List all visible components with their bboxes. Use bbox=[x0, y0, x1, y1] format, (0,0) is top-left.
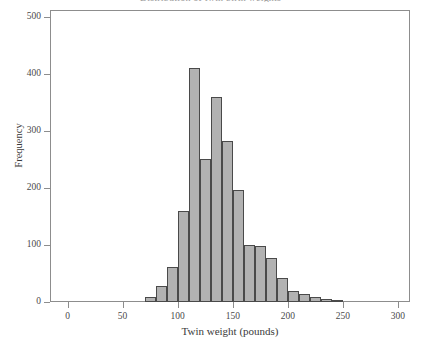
x-axis-tick-label: 100 bbox=[158, 311, 198, 321]
y-axis-tick-label: 300 bbox=[0, 125, 41, 135]
x-axis-tick-label: 50 bbox=[103, 311, 143, 321]
histogram-figure: Distribution of twin birth weights Frequ… bbox=[0, 0, 421, 347]
y-axis-tick bbox=[44, 188, 50, 189]
y-axis-tick bbox=[44, 17, 50, 18]
histogram-bar bbox=[222, 141, 233, 302]
histogram-bar bbox=[167, 267, 178, 302]
x-axis-tick bbox=[123, 302, 124, 308]
histogram-bar bbox=[233, 190, 244, 302]
histogram-bar bbox=[299, 294, 310, 302]
histogram-bar bbox=[266, 258, 277, 303]
histogram-bar bbox=[255, 246, 266, 302]
figure-title: Distribution of twin birth weights bbox=[0, 0, 421, 2]
histogram-bar bbox=[211, 97, 222, 302]
histogram-bar bbox=[277, 278, 288, 302]
x-axis-title: Twin weight (pounds) bbox=[50, 325, 410, 337]
histogram-bar bbox=[321, 299, 332, 302]
histogram-bar bbox=[178, 211, 189, 302]
x-axis-tick-label: 300 bbox=[378, 311, 418, 321]
x-axis-tick-label: 0 bbox=[48, 311, 88, 321]
y-axis-tick bbox=[44, 74, 50, 75]
y-axis-tick bbox=[44, 245, 50, 246]
histogram-bar bbox=[332, 300, 343, 302]
y-axis-tick bbox=[44, 131, 50, 132]
x-axis-tick-label: 150 bbox=[213, 311, 253, 321]
y-axis-tick-label: 400 bbox=[0, 68, 41, 78]
x-axis-tick bbox=[68, 302, 69, 308]
x-axis-tick bbox=[343, 302, 344, 308]
histogram-bar bbox=[244, 245, 255, 302]
y-axis-tick-label: 500 bbox=[0, 11, 41, 21]
y-axis-tick-label: 200 bbox=[0, 182, 41, 192]
x-axis-tick-label: 200 bbox=[268, 311, 308, 321]
histogram-bar bbox=[189, 68, 200, 302]
histogram-bar bbox=[200, 159, 211, 302]
histogram-bar bbox=[288, 291, 299, 302]
histogram-bar bbox=[145, 297, 156, 302]
x-axis-tick bbox=[398, 302, 399, 308]
plot-area bbox=[51, 11, 409, 302]
x-axis-tick bbox=[233, 302, 234, 308]
x-axis-tick bbox=[288, 302, 289, 308]
y-axis-tick bbox=[44, 302, 50, 303]
x-axis-tick-label: 250 bbox=[323, 311, 363, 321]
histogram-bar bbox=[156, 286, 167, 302]
histogram-bar bbox=[310, 297, 321, 302]
y-axis-tick-label: 100 bbox=[0, 239, 41, 249]
y-axis-tick-label: 0 bbox=[0, 296, 41, 306]
x-axis-tick bbox=[178, 302, 179, 308]
